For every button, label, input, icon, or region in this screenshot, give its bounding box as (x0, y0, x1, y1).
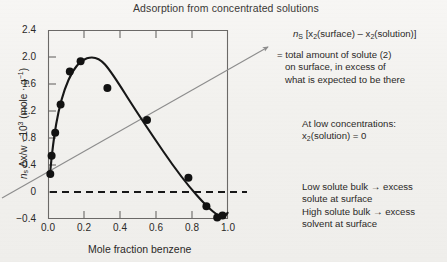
y-axis-label-n: n (18, 173, 29, 179)
formula-rest-a: [x (303, 28, 313, 39)
annotation-low-concentration: At low concentrations:x2(solution) = 0 (302, 118, 396, 143)
y-axis-label-mid: Δx/w · 10 (18, 125, 29, 169)
y-tick-label: −0.4 (6, 213, 36, 224)
x-axis-label: Mole fraction benzene (88, 243, 191, 255)
data-point (51, 129, 59, 137)
formula-rest-c: (solution)] (374, 28, 416, 39)
data-point (103, 84, 111, 92)
data-point (46, 170, 54, 178)
y-axis-label: ns Δx/w · 103 (mole · g−1) (18, 49, 29, 199)
x-tick-label: 0.0 (33, 222, 63, 233)
y-axis-label-sub: s (22, 170, 29, 174)
data-point (219, 212, 227, 220)
data-point (202, 202, 210, 210)
y-axis-label-sup2: −1 (17, 71, 24, 79)
y-tick-label: 2.4 (10, 24, 36, 35)
plot-frame (48, 30, 228, 219)
x-tick-marks-top (84, 30, 192, 38)
y-axis-label-end: ) (18, 68, 29, 71)
low-conc-rest: (solution) = 0 (311, 130, 367, 141)
annotation-conclusion: Low solute bulk → excess solute at surfa… (302, 181, 415, 230)
y-axis-label-sup: 3 (17, 122, 24, 126)
annotation-definition: = total amount of solute (2) on surface,… (277, 49, 405, 86)
data-point (143, 116, 151, 124)
annotation-formula: nS [x2(surface) – x2(solution)] (293, 28, 416, 40)
y-axis-label-suffix: (mole · g (18, 79, 29, 121)
x-tick-label: 1.0 (213, 222, 243, 233)
x-tick-label: 0.4 (105, 222, 135, 233)
figure-adsorption-chart: Adsorption from concentrated solutions (0, 0, 447, 262)
x-tick-label: 0.8 (177, 222, 207, 233)
formula-rest-b: (surface) – x (317, 28, 370, 39)
x-tick-label: 0.6 (141, 222, 171, 233)
x-tick-label: 0.2 (69, 222, 99, 233)
data-point (77, 57, 85, 65)
low-conc-line1: At low concentrations: (302, 118, 396, 129)
guide-diagonal-line (2, 47, 268, 198)
data-point (57, 101, 65, 109)
data-point (184, 174, 192, 182)
data-point (48, 152, 56, 160)
data-point (66, 67, 74, 75)
x-tick-marks-bottom (84, 211, 192, 219)
